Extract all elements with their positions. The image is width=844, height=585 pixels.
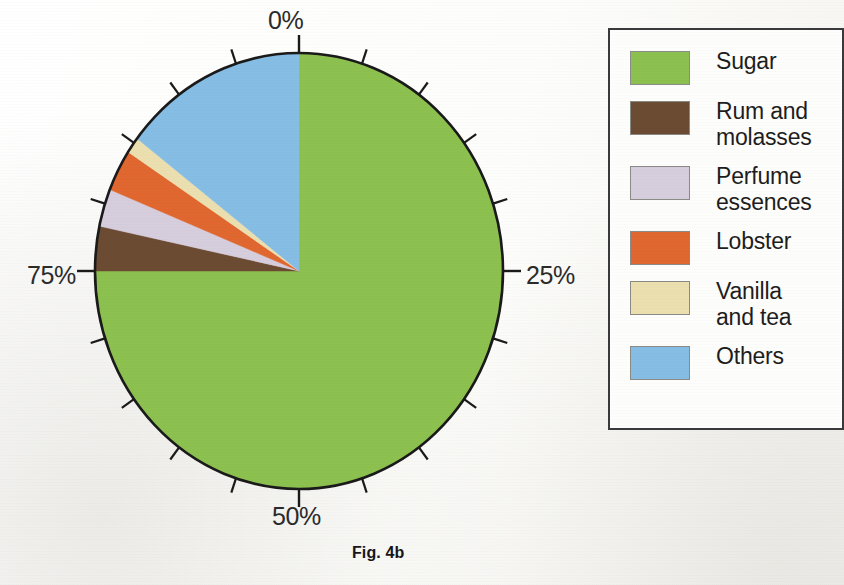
pie-tick-70 (91, 338, 105, 343)
axis-tick-label-75: 75% (27, 261, 76, 290)
legend-swatch-sugar (630, 51, 690, 85)
legend-label: Perfume essences (716, 163, 812, 215)
legend-swatch-vanilla-and-tea (630, 281, 690, 315)
figure-caption: Fig. 4b (352, 544, 404, 562)
pie-tick-35 (464, 399, 476, 408)
legend-row-others[interactable]: Others (630, 343, 842, 380)
legend-swatch-lobster (630, 231, 690, 265)
pie-tick-40 (419, 447, 428, 459)
pie-slice-group (95, 53, 503, 489)
legend-row-sugar[interactable]: Sugar (630, 48, 842, 85)
legend-row-perfume-essences[interactable]: Perfume essences (630, 163, 842, 215)
pie-tick-85 (122, 134, 134, 143)
legend-label: Lobster (716, 228, 791, 254)
pie-tick-5 (362, 49, 367, 63)
pie-tick-90 (170, 83, 179, 95)
axis-tick-label-0: 0% (268, 6, 303, 35)
legend-label: Others (716, 343, 784, 369)
pie-tick-30 (493, 338, 507, 343)
legend-row-lobster[interactable]: Lobster (630, 228, 842, 265)
legend-swatch-rum-and-molasses (630, 101, 690, 135)
pie-tick-20 (493, 199, 507, 204)
pie-tick-80 (91, 199, 105, 204)
pie-tick-45 (362, 478, 367, 492)
legend-label: Rum and molasses (716, 98, 812, 150)
pie-tick-60 (170, 447, 179, 459)
legend-swatch-perfume-essences (630, 166, 690, 200)
pie-tick-10 (419, 83, 428, 95)
figure-page: 0% 25% 50% 75% Fig. 4b SugarRum and mola… (0, 0, 844, 585)
pie-tick-95 (231, 49, 236, 63)
pie-chart-area: 0% 25% 50% 75% Fig. 4b (0, 0, 600, 585)
pie-tick-15 (464, 134, 476, 143)
axis-tick-label-50: 50% (272, 502, 321, 531)
legend-row-rum-and-molasses[interactable]: Rum and molasses (630, 98, 842, 150)
pie-tick-55 (231, 478, 236, 492)
axis-tick-label-25: 25% (526, 261, 575, 290)
pie-chart-svg (0, 0, 600, 585)
legend-row-vanilla-and-tea[interactable]: Vanilla and tea (630, 278, 842, 330)
legend-swatch-others (630, 346, 690, 380)
legend-label: Vanilla and tea (716, 278, 791, 330)
pie-tick-65 (122, 399, 134, 408)
legend-label: Sugar (716, 48, 776, 74)
chart-legend: SugarRum and molassesPerfume essencesLob… (608, 28, 844, 430)
